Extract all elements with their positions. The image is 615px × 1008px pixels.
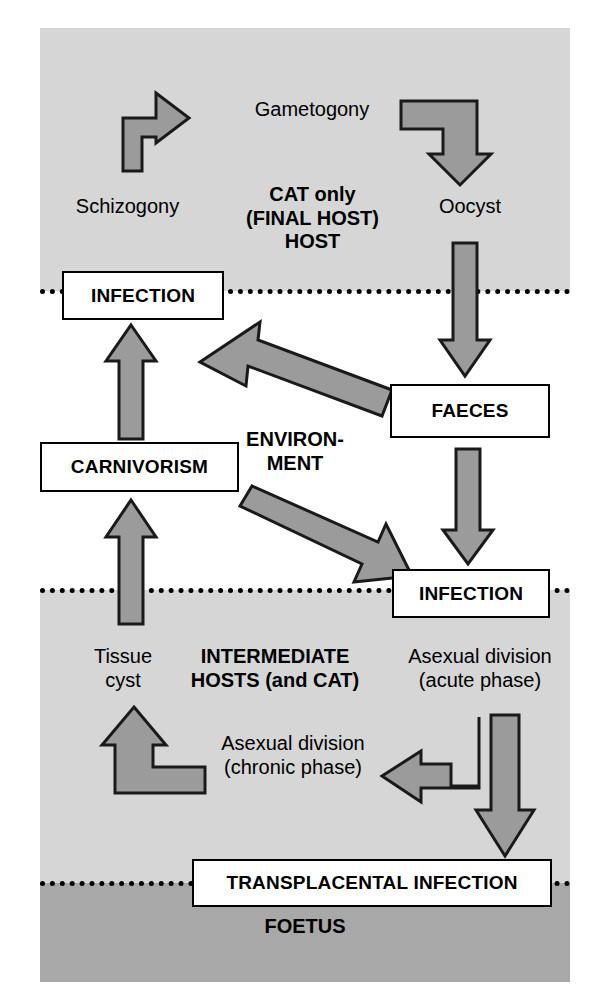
label-asexual-division-acute: Asexual division (acute phase): [390, 645, 570, 692]
arrow-environment-to-infection-mid: [236, 484, 416, 590]
label-oocyst: Oocyst: [400, 195, 540, 219]
label-asexual-chronic-line2: (chronic phase): [198, 756, 388, 780]
box-transplacental-label: TRANSPLACENTAL INFECTION: [226, 872, 517, 894]
box-transplacental-infection[interactable]: TRANSPLACENTAL INFECTION: [192, 859, 552, 907]
arrow-oocyst-to-faeces: [437, 240, 493, 380]
label-environment-line1: ENVIRON-: [225, 428, 365, 452]
arrow-tissue-cyst-to-carnivorism: [103, 497, 159, 627]
label-intermediate-line2: HOSTS (and CAT): [170, 669, 380, 693]
diagram-canvas: INFECTION FAECES CARNIVORISM INFECTION T…: [0, 0, 615, 1008]
label-environment-line2: MENT: [225, 452, 365, 476]
label-cat-only-line1: CAT only: [220, 183, 405, 207]
label-tissue-cyst-line2: cyst: [78, 669, 168, 693]
label-asexual-division-chronic: Asexual division (chronic phase): [198, 732, 388, 779]
label-cat-only-line3: HOST: [220, 230, 405, 254]
label-intermediate-hosts: INTERMEDIATE HOSTS (and CAT): [170, 645, 380, 692]
arrow-acute-to-transplacental: [472, 712, 538, 860]
label-tissue-cyst-line1: Tissue: [78, 645, 168, 669]
label-tissue-cyst: Tissue cyst: [78, 645, 168, 692]
box-infection-top[interactable]: INFECTION: [62, 271, 224, 320]
box-faeces-label: FAECES: [431, 400, 508, 422]
arrow-schizogony-to-gametogony: [120, 88, 192, 174]
label-foetus: FOETUS: [40, 915, 570, 939]
box-infection-mid-label: INFECTION: [419, 583, 523, 605]
arrow-gametogony-to-oocyst: [398, 96, 494, 188]
label-environment: ENVIRON- MENT: [225, 428, 365, 475]
box-carnivorism[interactable]: CARNIVORISM: [40, 442, 239, 492]
box-faeces[interactable]: FAECES: [390, 384, 550, 438]
arrow-environment-to-infection-top: [196, 310, 396, 420]
box-infection-mid[interactable]: INFECTION: [392, 569, 550, 618]
arrow-chronic-to-tissue-cyst: [98, 704, 208, 796]
label-schizogony: Schizogony: [40, 195, 215, 219]
arrow-faeces-to-infection: [440, 446, 496, 568]
box-infection-top-label: INFECTION: [91, 285, 195, 307]
label-gametogony: Gametogony: [232, 98, 392, 122]
box-carnivorism-label: CARNIVORISM: [71, 456, 208, 478]
label-asexual-chronic-line1: Asexual division: [198, 732, 388, 756]
label-asexual-acute-line1: Asexual division: [390, 645, 570, 669]
label-intermediate-line1: INTERMEDIATE: [170, 645, 380, 669]
label-cat-only-line2: (FINAL HOST): [220, 207, 405, 231]
label-asexual-acute-line2: (acute phase): [390, 669, 570, 693]
label-cat-final-host: CAT only (FINAL HOST) HOST: [220, 183, 405, 254]
arrow-carnivorism-to-infection: [103, 322, 159, 442]
arrow-acute-to-chronic: [378, 714, 482, 810]
